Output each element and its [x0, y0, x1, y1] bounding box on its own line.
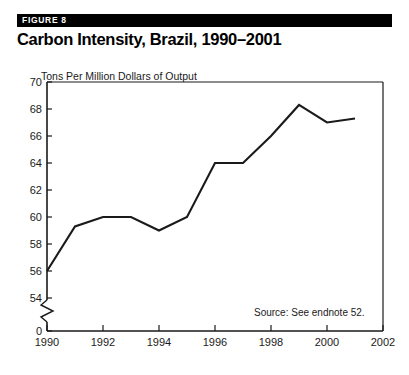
source-note: Source: See endnote 52.	[254, 307, 365, 318]
ytick-label: 64	[30, 157, 42, 169]
ytick-label: 58	[30, 238, 42, 250]
figure-container: FIGURE 8 Carbon Intensity, Brazil, 1990–…	[0, 0, 409, 375]
plot-frame	[41, 82, 383, 331]
ytick-label: 60	[30, 211, 42, 223]
x-axis-ticks	[47, 325, 383, 331]
xtick-label: 1998	[259, 336, 283, 348]
line-chart: 70 68 66 64 62 60 58 56 54 0 1990 1992 1…	[0, 0, 409, 375]
x-axis-tick-labels: 1990 1992 1994 1996 1998 2000 2002	[35, 336, 395, 348]
xtick-label: 1994	[147, 336, 171, 348]
y-axis-tick-labels: 70 68 66 64 62 60 58 56 54 0	[30, 76, 42, 337]
ytick-label: 54	[30, 292, 42, 304]
ytick-label: 70	[30, 76, 42, 88]
xtick-label: 2000	[315, 336, 339, 348]
ytick-label: 66	[30, 130, 42, 142]
xtick-label: 1996	[203, 336, 227, 348]
y-axis-break-marker	[41, 300, 53, 322]
ytick-label: 56	[30, 265, 42, 277]
series-line-carbon-intensity	[47, 105, 355, 271]
xtick-label: 1992	[91, 336, 115, 348]
xtick-label: 1990	[35, 336, 59, 348]
ytick-label: 68	[30, 103, 42, 115]
xtick-label: 2002	[371, 336, 395, 348]
ytick-label: 62	[30, 184, 42, 196]
